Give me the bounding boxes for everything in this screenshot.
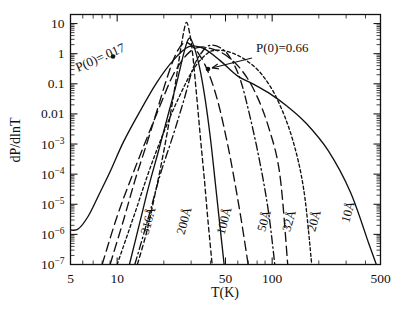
curve-labels: 316Å200Å100Å50Å32Å20Å10Å [138, 200, 358, 237]
curve-label-100Å: 100Å [214, 206, 235, 237]
x-tick-label: 100 [262, 271, 283, 286]
x-tick-label: 50 [219, 271, 233, 286]
y-tick-label: 1 [58, 46, 65, 61]
x-tick-label: 500 [370, 271, 391, 286]
x-axis-label: T(K) [211, 285, 239, 301]
y-axis-label: dP/dlnT [8, 117, 23, 163]
y-tick-exponent: −6 [54, 226, 64, 236]
y-tick-exponent: −4 [54, 166, 64, 176]
x-tick-label: 5 [67, 271, 74, 286]
x-tick-labels: 51050100500 [67, 271, 391, 286]
curve-label-316Å: 316Å [138, 206, 159, 237]
y-tick-exponent: −5 [54, 196, 64, 206]
annotation-p0-017: P(0)=.017 [73, 39, 127, 74]
annotation-marker-p0-066 [206, 67, 211, 72]
x-tick-label: 10 [110, 271, 124, 286]
y-tick-label: 10−5 [41, 196, 65, 212]
curve-50Å [135, 45, 275, 264]
y-tick-exponent: −7 [54, 256, 64, 266]
chart-svg: 1010.10.0110−310−410−510−610−7 510501005… [0, 0, 406, 311]
y-tick-labels: 1010.10.0110−310−410−510−610−7 [41, 16, 65, 272]
annotation-p0-066: P(0)=0.66 [256, 40, 309, 55]
y-tick-label: 0.01 [41, 106, 65, 121]
y-tick-label: 10 [51, 16, 65, 31]
curve-label-32Å: 32Å [279, 209, 298, 234]
curve-label-20Å: 20Å [304, 209, 323, 234]
y-tick-label: 10−3 [41, 136, 65, 152]
figure-panel: 1010.10.0110−310−410−510−610−7 510501005… [0, 0, 406, 311]
y-tick-label: 10−4 [41, 166, 65, 182]
curve-label-50Å: 50Å [254, 209, 273, 234]
y-tick-label: 10−7 [41, 256, 65, 272]
curve-label-10Å: 10Å [338, 200, 357, 225]
y-tick-label: 0.1 [48, 76, 65, 91]
y-tick-label: 10−6 [41, 226, 65, 242]
curve-label-200Å: 200Å [174, 206, 195, 237]
annotation-marker-p0-017 [111, 54, 116, 59]
y-tick-exponent: −3 [54, 136, 64, 146]
